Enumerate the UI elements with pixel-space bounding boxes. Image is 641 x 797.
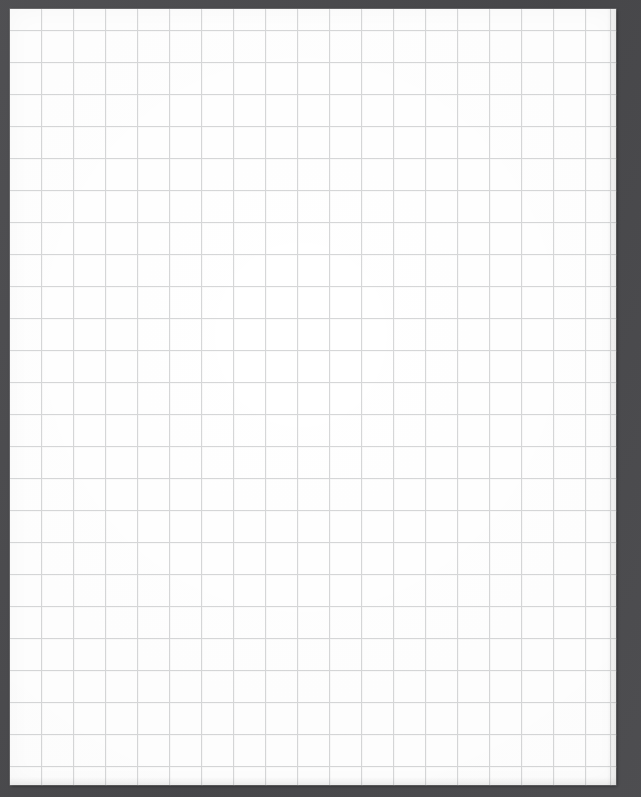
paper-sheet[interactable] [10,9,616,785]
scanned-page-canvas [0,0,641,797]
paper-content-area[interactable] [10,9,616,785]
